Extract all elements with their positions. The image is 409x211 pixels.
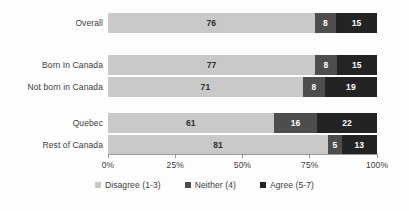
bar-track: 76815 [108, 13, 377, 33]
bar-segment: 15 [336, 13, 377, 33]
x-axis-tick-mark [242, 154, 243, 158]
bar-row: Born In Canada77815 [0, 55, 409, 75]
legend-swatch-icon [185, 182, 191, 188]
bar-row: Not born in Canada71819 [0, 77, 409, 97]
bar-segment: 19 [325, 77, 377, 97]
legend-item[interactable]: Neither (4) [185, 180, 236, 190]
bar-row-label: Born In Canada [0, 60, 108, 70]
bar-row: Overall76815 [0, 13, 409, 33]
bar-segment: 15 [337, 55, 377, 75]
x-axis-tick-label: 100% [366, 160, 388, 170]
x-axis-tick-label: 0% [102, 160, 115, 170]
legend-item[interactable]: Disagree (1-3) [95, 180, 161, 190]
x-axis: 0%25%50%75%100% [108, 154, 377, 178]
bar-segment: 8 [315, 55, 337, 75]
bar-segment: 8 [303, 77, 325, 97]
bar-segment: 16 [274, 113, 317, 133]
bar-segment: 8 [315, 13, 337, 33]
x-axis-tick-mark [377, 154, 378, 158]
x-axis-tick-mark [175, 154, 176, 158]
legend-swatch-icon [260, 182, 266, 188]
bar-track: 71819 [108, 77, 377, 97]
bar-row-label: Quebec [0, 118, 108, 128]
bar-segment: 22 [317, 113, 377, 133]
bar-row: Quebec611622 [0, 113, 409, 133]
x-axis-tick-label: 75% [301, 160, 318, 170]
legend-item-label: Disagree (1-3) [105, 180, 161, 190]
x-axis-tick-label: 25% [167, 160, 184, 170]
legend-item-label: Agree (5-7) [270, 180, 314, 190]
x-axis-tick-mark [309, 154, 310, 158]
stacked-bar-chart: Overall76815Born In Canada77815Not born … [0, 0, 409, 211]
legend-item[interactable]: Agree (5-7) [260, 180, 314, 190]
bar-segment: 5 [328, 135, 342, 155]
x-axis-tick-label: 50% [234, 160, 251, 170]
bar-track: 611622 [108, 113, 377, 133]
legend-swatch-icon [95, 182, 101, 188]
bar-segment: 61 [108, 113, 274, 133]
legend-item-label: Neither (4) [195, 180, 236, 190]
bar-segment: 71 [108, 77, 303, 97]
bar-row-label: Not born in Canada [0, 82, 108, 92]
bar-row-label: Rest of Canada [0, 140, 108, 150]
bar-segment: 81 [108, 135, 328, 155]
bar-row-label: Overall [0, 18, 108, 28]
x-axis-tick-mark [108, 154, 109, 158]
bar-segment: 76 [108, 13, 315, 33]
bar-track: 81513 [108, 135, 377, 155]
bar-segment: 77 [108, 55, 315, 75]
bar-segment: 13 [342, 135, 377, 155]
chart-legend: Disagree (1-3)Neither (4)Agree (5-7) [0, 180, 409, 190]
bar-row: Rest of Canada81513 [0, 135, 409, 155]
bar-track: 77815 [108, 55, 377, 75]
